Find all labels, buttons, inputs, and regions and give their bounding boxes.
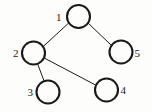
graph-node-label-3: 3 [28,86,34,98]
graph-edge-1-5 [88,23,112,46]
edges-layer [38,23,112,85]
graph-node-1 [67,5,90,28]
graph-edge-1-2 [43,23,69,47]
graph-node-4 [95,79,118,102]
graph-node-label-1: 1 [56,11,62,23]
graph-node-label-2: 2 [13,47,19,59]
graph-node-5 [110,41,133,64]
graph-canvas: 12345 [0,0,152,112]
graph-node-label-4: 4 [121,84,127,96]
graph-figure: 12345 [0,0,152,112]
nodes-layer [22,5,133,104]
graph-node-2 [22,42,45,65]
graph-node-3 [37,81,60,104]
graph-node-label-5: 5 [135,47,141,59]
graph-edge-2-3 [38,64,45,81]
